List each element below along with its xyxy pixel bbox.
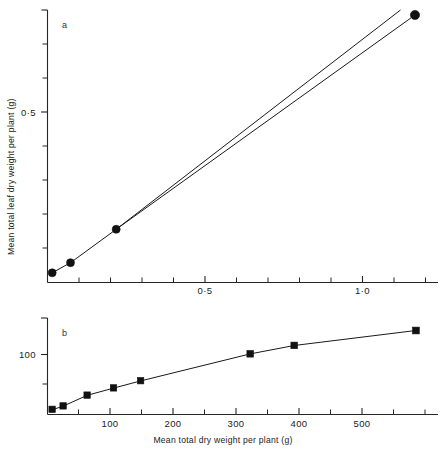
panel-a-point-1 [67, 259, 75, 267]
panel-a: 0·5 0·5 1·0 [21, 10, 438, 296]
panel-b-point-5 [247, 351, 254, 358]
figure-svg: 0·5 0·5 1·0 [0, 0, 446, 456]
panel-b-label: b [62, 328, 67, 338]
y-axis-title: Mean total leaf dry weight per plant (g) [6, 98, 16, 255]
panel-a-data-points [48, 10, 419, 276]
figure-container: 0·5 0·5 1·0 [0, 0, 446, 456]
panel-b-xtick-label-3: 400 [290, 418, 307, 429]
panel-a-xtick-label-0: 0·5 [198, 285, 213, 296]
panel-b: 100 100 200 300 400 500 [19, 318, 438, 429]
panel-b-point-2 [84, 392, 90, 398]
panel-a-x-ticks [79, 276, 426, 283]
panel-b-xtick-label-1: 200 [164, 418, 181, 429]
panel-b-point-6 [291, 342, 298, 349]
panel-b-y-ticks [41, 318, 48, 384]
panel-b-ytick-label-0: 100 [19, 349, 36, 360]
panel-b-x-ticks [79, 408, 426, 415]
panel-b-point-3 [110, 385, 116, 391]
panel-b-xtick-label-4: 500 [353, 418, 370, 429]
panel-a-xtick-label-1: 1·0 [355, 285, 370, 296]
panel-a-label: a [62, 20, 67, 30]
panel-b-data-points [49, 327, 419, 412]
panel-a-series-segment-3 [116, 15, 415, 229]
panel-b-point-1 [60, 403, 66, 409]
panel-b-xtick-label-2: 300 [227, 418, 244, 429]
panel-b-point-4 [137, 378, 143, 384]
panel-a-ytick-label-0: 0·5 [21, 107, 36, 118]
x-axis-title: Mean total dry weight per plant (g) [153, 435, 292, 445]
panel-a-point-3 [410, 10, 419, 19]
panel-b-xtick-label-0: 100 [101, 418, 118, 429]
panel-b-point-7 [413, 327, 420, 334]
panel-a-point-0 [48, 269, 56, 277]
panel-b-point-0 [49, 406, 55, 412]
panel-a-series-line [52, 10, 400, 273]
panel-b-series-line [53, 331, 416, 410]
panel-a-y-ticks [41, 10, 48, 248]
